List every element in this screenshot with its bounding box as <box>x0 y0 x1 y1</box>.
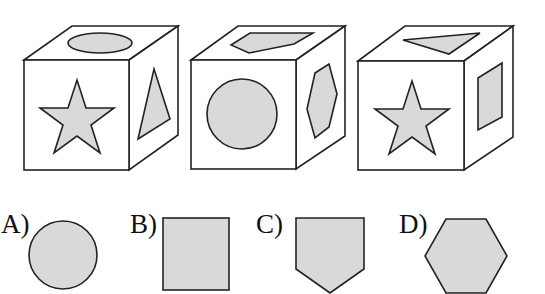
option-a-circle[interactable] <box>29 221 97 289</box>
cube-2 <box>191 26 345 169</box>
circle-icon <box>207 79 277 149</box>
ellipse-icon <box>68 33 132 53</box>
option-b-label: B) <box>130 211 157 238</box>
option-c-pentagon[interactable] <box>296 218 364 293</box>
option-b-square[interactable] <box>163 218 229 290</box>
option-d-label: D) <box>399 211 428 238</box>
cube-1 <box>24 26 178 170</box>
cube-3 <box>358 26 513 170</box>
puzzle-figure <box>0 0 545 294</box>
option-c-label: C) <box>256 211 283 238</box>
option-d-hexagon[interactable] <box>425 219 507 293</box>
option-a-label: A) <box>1 211 30 238</box>
